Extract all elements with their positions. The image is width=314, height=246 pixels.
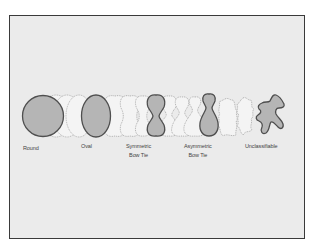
unclassifiable-shape [256, 95, 284, 134]
shape-continuum [0, 0, 314, 246]
label-round-line1: Round [23, 144, 39, 153]
label-oval-line1: Oval [81, 142, 92, 151]
asymmetric-bow-tie-shape [200, 94, 218, 136]
label-symmetric-bow-tie: Symmetric Bow Tie [126, 142, 151, 160]
label-unclassifiable-line1: Unclassifiable [245, 142, 278, 151]
label-symmetric-line2: Bow Tie [126, 151, 151, 160]
label-asymmetric-bow-tie: Asymmetric Bow Tie [184, 142, 212, 160]
label-asymmetric-line1: Asymmetric [184, 142, 212, 151]
label-symmetric-line1: Symmetric [126, 142, 151, 151]
oval-shape [82, 95, 111, 137]
round-shape [23, 96, 64, 137]
label-unclassifiable: Unclassifiable [245, 142, 278, 151]
label-round: Round [23, 144, 39, 153]
label-asymmetric-line2: Bow Tie [184, 151, 212, 160]
symmetric-bow-tie-shape [147, 95, 164, 136]
label-oval: Oval [81, 142, 92, 151]
